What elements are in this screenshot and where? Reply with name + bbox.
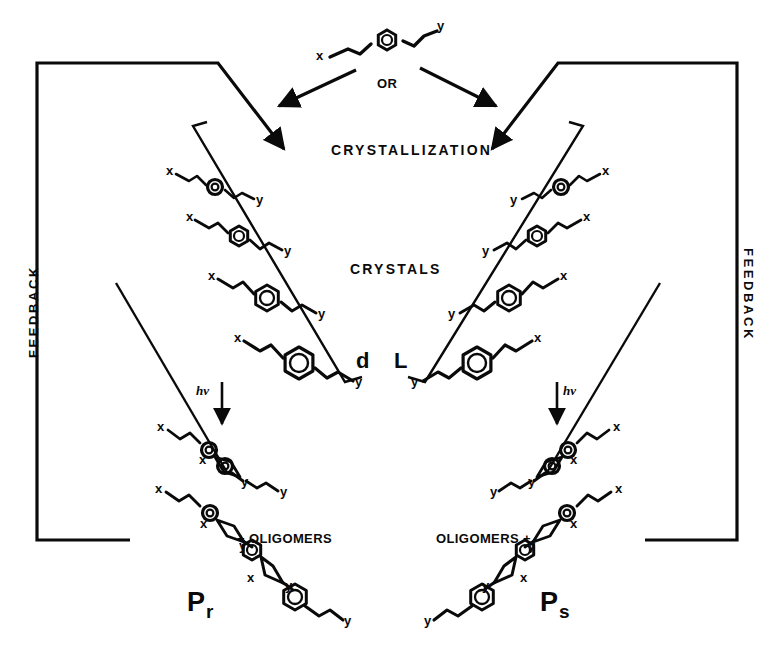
polymer-right-main-y2: y	[482, 578, 490, 593]
chirality-label-d: d	[356, 348, 370, 374]
polymer-right-main-x1: x	[615, 481, 623, 496]
stack-left-label-y-1: y	[256, 192, 264, 207]
stack-right-label-x-3: x	[560, 268, 568, 283]
polymer-left-main-x1: x	[155, 481, 163, 496]
polymer-left-main-y1: y	[239, 538, 247, 553]
feedback-label-right: FEEDBACK	[741, 248, 756, 358]
stack-right-label-x-4: x	[534, 330, 542, 345]
polymer-left-upper-y2: y	[280, 484, 288, 499]
product-symbol-left: P	[187, 587, 206, 617]
monomer-label-x: x	[316, 48, 324, 63]
polymer-right-upper-y2: y	[490, 484, 498, 499]
polymer-left-main-x2: x	[200, 516, 208, 531]
stack-left-label-x-2: x	[186, 209, 194, 224]
oligomers-label-right: OLIGOMERS +	[436, 531, 531, 546]
monomer-benzene-ring	[378, 30, 395, 50]
right-crystal-bracket	[408, 122, 660, 474]
right-polymer-chain-main	[434, 492, 611, 620]
chirality-label-l: L	[394, 348, 408, 374]
polymer-right-main-x3: x	[520, 570, 528, 585]
stack-left-label-x-4: x	[234, 330, 242, 345]
stack-left-label-x-3: x	[208, 268, 216, 283]
right-polymer-chain-upper	[499, 430, 609, 491]
product-label-ps: Ps	[540, 592, 571, 619]
polymer-right-upper-y1: y	[528, 474, 536, 489]
stack-left-label-y-3: y	[318, 306, 326, 321]
feedback-loop-left	[37, 63, 284, 540]
stack-right-label-x-2: x	[583, 209, 591, 224]
stack-right-label-y-2: y	[482, 243, 490, 258]
product-subscript-left: r	[206, 601, 214, 622]
left-polymer-chain-upper	[168, 430, 278, 491]
polymer-left-main-y2: y	[285, 578, 293, 593]
feedback-loop-right	[492, 63, 737, 540]
branch-label-or: OR	[377, 76, 398, 91]
polymer-right-upper-x1: x	[613, 419, 621, 434]
polymer-right-upper-x2: x	[570, 452, 578, 467]
stack-left-label-x-1: x	[166, 163, 174, 178]
crystals-label: CRYSTALS	[350, 261, 442, 277]
polymer-left-main-y3: y	[344, 613, 352, 628]
stack-right-label-y-3: y	[448, 306, 456, 321]
photolysis-label-left: hv	[196, 383, 209, 399]
polymer-left-upper-x2: x	[199, 452, 207, 467]
stack-right-label-y-1: y	[510, 192, 518, 207]
stack-right-label-y-4: y	[411, 374, 419, 389]
product-subscript-right: s	[559, 601, 571, 622]
left-crystal-bracket	[116, 122, 362, 474]
polymer-right-main-x2: x	[570, 516, 578, 531]
branch-arrow-left	[279, 70, 356, 106]
feedback-label-left: FEEDBACK	[26, 248, 41, 358]
photolysis-label-right: hv	[563, 383, 576, 399]
polymer-right-main-y3: y	[424, 613, 432, 628]
product-symbol-right: P	[540, 587, 559, 617]
polymer-right-main-y1: y	[528, 538, 536, 553]
polymer-left-upper-y1: y	[241, 474, 249, 489]
stack-left-label-y-2: y	[284, 243, 292, 258]
polymer-left-upper-x1: x	[157, 419, 165, 434]
oligomers-label-left: + OLIGOMERS	[237, 531, 332, 546]
diagram-vector-layer	[0, 0, 774, 671]
diagram-canvas: x y OR CRYSTALLIZATION CRYSTALS d L hv h…	[0, 0, 774, 671]
product-label-pr: Pr	[187, 592, 214, 619]
stack-left-label-y-4: y	[355, 374, 363, 389]
crystallization-label: CRYSTALLIZATION	[331, 142, 492, 158]
polymer-left-main-x3: x	[247, 570, 255, 585]
branch-arrow-right	[420, 68, 496, 106]
monomer-label-y: y	[437, 18, 445, 33]
stack-right-label-x-1: x	[602, 163, 610, 178]
